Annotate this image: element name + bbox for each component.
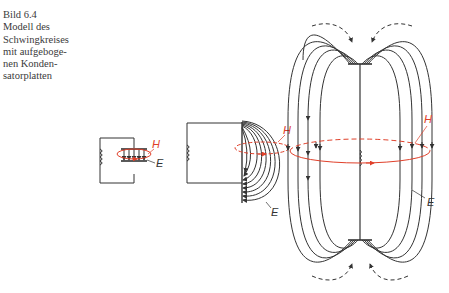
stage-closed-capacitor	[100, 138, 155, 183]
e-label: E	[271, 206, 279, 218]
circuit-wire	[187, 123, 242, 183]
detached-field-bottom-right	[370, 264, 408, 280]
stage-bent-plates	[187, 121, 289, 208]
h-field-loop	[235, 142, 289, 154]
detached-field-top-right	[372, 24, 412, 42]
e-field-lines-left	[288, 35, 356, 262]
e-field-lines-right	[364, 42, 432, 263]
diagram-canvas: H E H E	[0, 0, 449, 293]
stage-open-dipole	[288, 24, 432, 280]
e-field-arcs	[242, 121, 280, 200]
detached-field-top-left	[312, 24, 352, 42]
h-label: H	[283, 124, 291, 136]
e-label: E	[427, 196, 435, 208]
h-label: H	[424, 113, 432, 125]
e-label: E	[156, 157, 164, 169]
detached-field-bottom-left	[312, 264, 352, 280]
h-label: H	[152, 138, 160, 150]
